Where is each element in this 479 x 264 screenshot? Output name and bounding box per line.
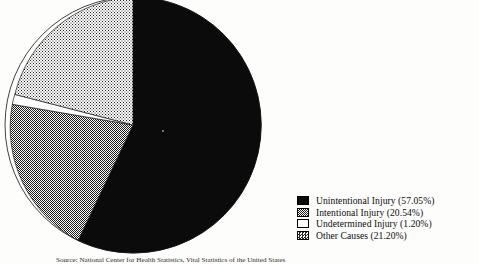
legend-item-unintentional-injury[interactable]: Unintentional Injury (57.05%) [297,195,479,207]
legend-item-undetermined-injury[interactable]: Undetermined Injury (1.20%) [297,218,479,230]
medium-gray-swatch-icon [297,208,309,217]
legend-item-label: Intentional Injury (20.54%) [316,207,423,218]
legend: Unintentional Injury (57.05%) Intentiona… [297,195,479,241]
legend-item-label: Other Causes (21.20%) [316,230,407,241]
pie-chart [0,0,285,255]
figure-caption: Source: National Center for Health Stati… [56,256,356,264]
legend-item-label: Unintentional Injury (57.05%) [316,195,434,206]
legend-item-other-causes[interactable]: Other Causes (21.20%) [297,230,479,242]
figure-root: Unintentional Injury (57.05%) Intentiona… [0,0,479,264]
pie-chart-svg [0,0,285,255]
legend-item-intentional-injury[interactable]: Intentional Injury (20.54%) [297,207,479,219]
light-gray-swatch-icon [297,231,309,240]
center-speck [162,130,164,132]
white-swatch-icon [297,219,309,228]
legend-item-label: Undetermined Injury (1.20%) [316,218,432,229]
solid-black-swatch-icon [297,196,309,205]
